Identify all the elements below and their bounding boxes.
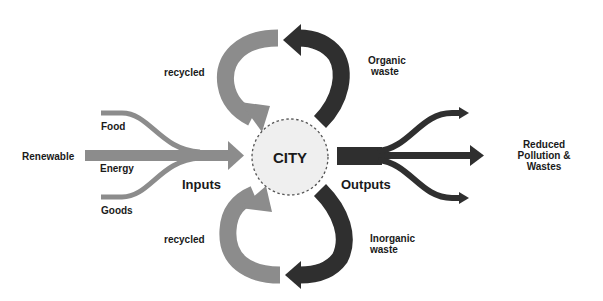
output-top-branch xyxy=(378,113,460,151)
food-input-arrow xyxy=(101,113,200,152)
organic-waste-line-1: Organic xyxy=(368,55,406,66)
inorganic-waste-line-1: Inorganic xyxy=(370,233,415,244)
energy-label: Energy xyxy=(100,163,134,174)
output-middle-arrowhead xyxy=(470,145,484,166)
outputs-heading: Outputs xyxy=(341,177,391,192)
destination-line-1: Reduced xyxy=(523,139,565,150)
destination-line-3: Wastes xyxy=(527,161,562,172)
input-arrowhead xyxy=(228,141,244,170)
energy-input-shaft xyxy=(85,150,230,161)
top-loop xyxy=(225,24,341,132)
renewable-label: Renewable xyxy=(22,151,75,162)
inorganic-waste-arrow xyxy=(300,190,344,275)
organic-waste-arrowhead xyxy=(283,24,301,56)
output-bottom-arrowhead xyxy=(459,192,469,204)
bottom-recycled-label: recycled xyxy=(164,234,205,245)
output-main-shaft xyxy=(337,147,382,165)
goods-label: Goods xyxy=(101,205,133,216)
organic-waste-line-2: waste xyxy=(370,66,399,77)
food-label: Food xyxy=(101,121,125,132)
destination-line-2: Pollution & xyxy=(518,150,571,161)
inputs-heading: Inputs xyxy=(182,177,221,192)
city-metabolism-diagram: CITY Renewable Food Energy Goods Inputs … xyxy=(0,0,603,301)
output-top-arrowhead xyxy=(459,107,469,119)
bottom-loop xyxy=(228,186,344,289)
output-middle-shaft xyxy=(380,152,472,159)
top-recycled-label: recycled xyxy=(164,67,205,78)
inorganic-waste-line-2: waste xyxy=(369,244,398,255)
city-label: CITY xyxy=(273,149,307,166)
organic-waste-arrow xyxy=(298,38,341,122)
inorganic-waste-arrowhead xyxy=(285,261,301,289)
